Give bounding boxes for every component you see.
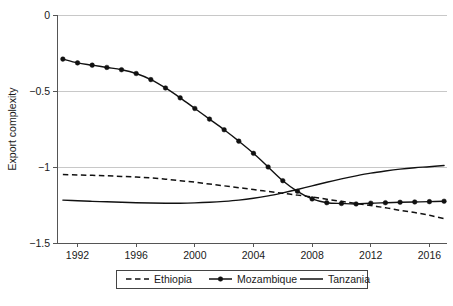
data-point-mozambique-1992 [75, 61, 80, 66]
data-point-mozambique-1995 [119, 67, 124, 72]
data-point-mozambique-1993 [90, 63, 95, 68]
x-tick-label-5: 2012 [359, 249, 383, 261]
y-tick-label-3: −1.5 [29, 237, 50, 249]
y-axis-title: Export complexity [6, 87, 18, 171]
data-point-mozambique-2009 [324, 200, 329, 205]
data-point-mozambique-2005 [266, 165, 271, 170]
data-point-mozambique-2004 [251, 151, 256, 156]
data-point-mozambique-2016 [427, 199, 432, 204]
series-path-ethiopia [63, 175, 444, 219]
y-tick-label-2: −1 [38, 161, 50, 173]
data-point-mozambique-1997 [149, 77, 154, 82]
x-tick-label-4: 2008 [300, 249, 324, 261]
data-point-mozambique-1991 [61, 57, 66, 62]
data-point-mozambique-2002 [222, 127, 227, 132]
data-point-mozambique-2008 [310, 197, 315, 202]
data-point-mozambique-2010 [339, 201, 344, 206]
data-point-mozambique-1998 [163, 86, 168, 91]
data-point-mozambique-2006 [280, 178, 285, 183]
export-complexity-line-chart: 0−0.5−1−1.5 1992199620002004200820122016… [0, 0, 453, 306]
y-axis-ticks: 0−0.5−1−1.5 [29, 9, 57, 249]
x-tick-label-1: 1996 [124, 249, 148, 261]
data-point-mozambique-2017 [442, 199, 447, 204]
data-point-mozambique-2003 [237, 139, 242, 144]
x-tick-label-3: 2004 [242, 249, 266, 261]
y-tick-label-0: 0 [44, 9, 50, 21]
x-axis-ticks: 1992199620002004200820122016 [66, 243, 441, 261]
data-point-mozambique-2014 [398, 200, 403, 205]
series-path-mozambique [63, 59, 444, 204]
chart-page: 0−0.5−1−1.5 1992199620002004200820122016… [0, 0, 453, 306]
legend-label-mozambique: Mozambique [237, 273, 297, 285]
data-point-mozambique-2001 [207, 117, 212, 122]
data-point-mozambique-1994 [105, 65, 110, 70]
x-tick-label-0: 1992 [66, 249, 90, 261]
x-tick-label-6: 2016 [418, 249, 442, 261]
legend-label-ethiopia: Ethiopia [154, 273, 192, 285]
series-group [61, 57, 447, 219]
series-path-tanzania [63, 165, 444, 203]
data-point-mozambique-2013 [383, 200, 388, 205]
data-point-mozambique-1996 [134, 71, 139, 76]
data-point-mozambique-1999 [178, 96, 183, 101]
legend-swatch-marker [218, 277, 223, 282]
y-axis-title-group: Export complexity [6, 87, 18, 171]
data-point-mozambique-2011 [354, 202, 359, 207]
data-point-mozambique-2000 [193, 106, 198, 111]
data-point-mozambique-2015 [412, 200, 417, 205]
legend-label-tanzania: Tanzania [328, 273, 370, 285]
data-point-mozambique-2012 [368, 201, 373, 206]
chart-legend: EthiopiaMozambiqueTanzania [116, 270, 370, 288]
y-tick-label-1: −0.5 [29, 85, 50, 97]
x-tick-label-2: 2000 [183, 249, 207, 261]
